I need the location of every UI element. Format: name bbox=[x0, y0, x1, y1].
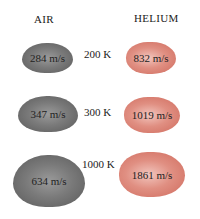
air-speed-200k: 284 m/s bbox=[30, 52, 65, 64]
air-speed-1000k: 634 m/s bbox=[31, 175, 66, 187]
temperature-label-200k: 200 K bbox=[84, 48, 111, 60]
helium-speed-200k: 832 m/s bbox=[133, 52, 168, 64]
air-speed-300k: 347 m/s bbox=[30, 108, 65, 120]
helium-header: HELIUM bbox=[134, 12, 179, 24]
temperature-label-300k: 300 K bbox=[84, 106, 111, 118]
helium-sound-blob-200k: 832 m/s bbox=[126, 42, 176, 74]
air-sound-blob-300k: 347 m/s bbox=[18, 96, 78, 132]
temperature-label-1000k: 1000 K bbox=[82, 158, 115, 170]
air-sound-blob-1000k: 634 m/s bbox=[13, 155, 85, 207]
air-header: AIR bbox=[34, 13, 54, 25]
helium-sound-blob-1000k: 1861 m/s bbox=[119, 152, 185, 197]
air-sound-blob-200k: 284 m/s bbox=[22, 43, 73, 73]
helium-speed-1000k: 1861 m/s bbox=[132, 169, 173, 181]
helium-sound-blob-300k: 1019 m/s bbox=[124, 97, 180, 133]
helium-speed-300k: 1019 m/s bbox=[132, 109, 173, 121]
